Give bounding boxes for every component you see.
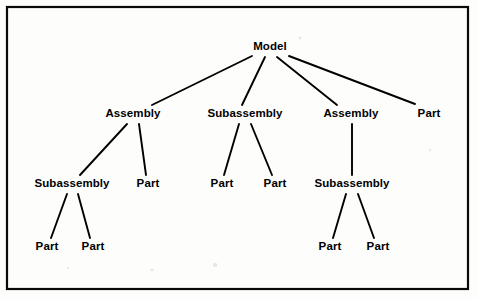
- tree-node-p7[interactable]: Part: [367, 240, 390, 252]
- tree-node-s3[interactable]: Subassembly: [314, 177, 390, 189]
- paper-speck: [299, 37, 302, 40]
- tree-diagram-svg: ModelAssemblySubassemblyAssemblyPartSuba…: [0, 0, 477, 299]
- tree-node-a1[interactable]: Assembly: [105, 107, 161, 119]
- tree-node-p2[interactable]: Part: [211, 177, 234, 189]
- tree-node-p6[interactable]: Part: [319, 240, 342, 252]
- edge-layer: [51, 56, 415, 238]
- node-layer: ModelAssemblySubassemblyAssemblyPartSuba…: [34, 40, 440, 252]
- paper-speck: [67, 267, 69, 269]
- tree-edge-s2-to-p5: [78, 194, 90, 238]
- tree-node-s1[interactable]: Subassembly: [207, 107, 283, 119]
- tree-node-p5[interactable]: Part: [82, 240, 105, 252]
- tree-edge-s3-to-p7: [358, 194, 374, 238]
- tree-edge-s1-to-p3: [251, 124, 272, 175]
- paper-speck: [429, 149, 432, 152]
- tree-node-s2[interactable]: Subassembly: [34, 177, 110, 189]
- diagram-border-frame: [7, 7, 468, 289]
- tree-edge-model-to-a1: [152, 56, 252, 105]
- tree-node-p4[interactable]: Part: [36, 240, 59, 252]
- paper-speck: [213, 263, 218, 268]
- tree-diagram-canvas: ModelAssemblySubassemblyAssemblyPartSuba…: [0, 0, 477, 299]
- tree-node-model[interactable]: Model: [253, 40, 287, 52]
- tree-edge-model-to-s1: [242, 57, 265, 105]
- tree-edge-s2-to-p4: [51, 194, 67, 238]
- tree-node-p1[interactable]: Part: [137, 177, 160, 189]
- tree-edge-a1-to-s2: [80, 124, 127, 175]
- paper-speck-layer: [67, 37, 432, 272]
- tree-edge-s1-to-p2: [224, 124, 239, 175]
- tree-node-p0[interactable]: Part: [418, 107, 441, 119]
- paper-speck: [150, 268, 153, 271]
- tree-edge-model-to-p0: [289, 56, 415, 104]
- tree-edge-s3-to-p6: [333, 194, 346, 238]
- tree-edge-a1-to-p1: [139, 124, 146, 175]
- tree-edge-model-to-a2: [277, 57, 337, 105]
- tree-node-a2[interactable]: Assembly: [323, 107, 379, 119]
- tree-node-p3[interactable]: Part: [264, 177, 287, 189]
